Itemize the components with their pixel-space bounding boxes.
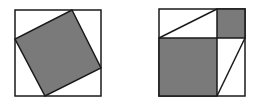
pythagorean-proof-diagram	[0, 0, 262, 106]
large-shaded-square	[159, 38, 217, 96]
right-figure	[159, 9, 245, 96]
left-figure	[15, 10, 101, 96]
small-shaded-square	[217, 9, 245, 38]
